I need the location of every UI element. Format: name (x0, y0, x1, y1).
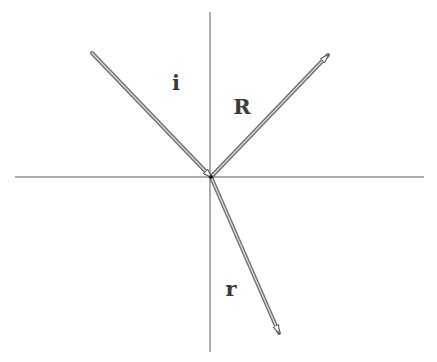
point-of-incidence (209, 175, 213, 179)
reflected-ray (211, 55, 328, 177)
refracted-ray-core (211, 177, 279, 333)
reflected-ray-label: R (233, 94, 251, 119)
incident-ray (92, 53, 211, 177)
reflected-ray-core (211, 55, 328, 177)
incident-ray-core (92, 53, 211, 177)
reflection-refraction-diagram: i R r (0, 0, 437, 362)
refracted-ray (211, 177, 279, 333)
incident-ray-label: i (172, 70, 180, 95)
refracted-ray-label: r (225, 276, 237, 301)
